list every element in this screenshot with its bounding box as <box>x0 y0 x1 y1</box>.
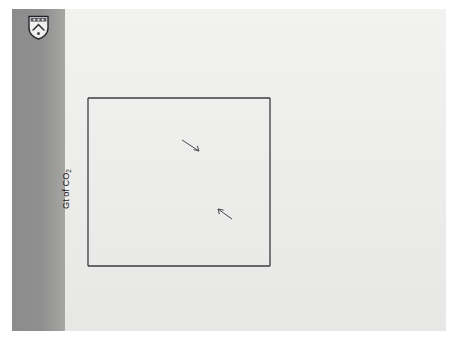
emissions-area-chart: Gt of CO2 <box>56 81 446 296</box>
rice-university-logo <box>12 15 65 42</box>
leader-line-alternative <box>218 209 232 219</box>
y-axis-label: Gt of CO2 <box>61 169 72 209</box>
leader-line-reference <box>182 140 199 151</box>
slide-canvas: Gt of CO2 <box>12 9 446 331</box>
chart-svg: Gt of CO2 <box>56 81 446 296</box>
rice-shield-crest-icon <box>27 15 50 40</box>
